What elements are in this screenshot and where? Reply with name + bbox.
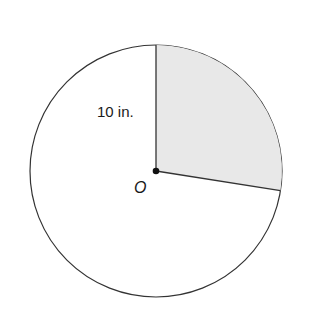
diagram: 10 in. O bbox=[0, 0, 312, 313]
shaded-sector bbox=[156, 45, 282, 191]
radius-label: 10 in. bbox=[97, 103, 134, 120]
center-point bbox=[153, 168, 160, 175]
center-label: O bbox=[134, 179, 146, 196]
